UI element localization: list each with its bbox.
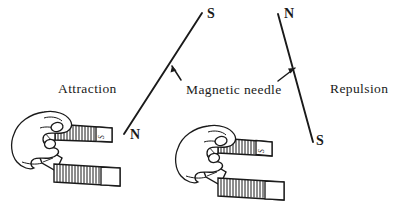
left-magnetic-needle: [124, 13, 202, 134]
right-magnet-pole-letter: S: [257, 149, 266, 153]
left-needle-bottom-pole-label: N: [130, 128, 140, 142]
left-needle-line: [124, 13, 202, 134]
right-magnet-lower-pole-tip: [265, 181, 284, 200]
right-hand-with-magnet: [176, 125, 284, 200]
left-magnet-lower-pole-tip: [101, 167, 120, 186]
magnetic-needle-label: Magnetic needle: [186, 83, 282, 97]
left-hand-with-magnet: [12, 111, 120, 186]
repulsion-label: Repulsion: [330, 82, 388, 96]
magnetism-illustration: S S Attraction Magnetic needle Repulsion…: [0, 0, 406, 203]
right-needle-line: [278, 14, 313, 142]
right-needle-bottom-pole-label: S: [316, 134, 324, 148]
illustration-canvas: S S: [0, 0, 406, 203]
right-needle-top-pole-label: N: [284, 7, 294, 21]
arrow-up-right-icon: [278, 68, 295, 81]
arrow-up-left-icon: [171, 66, 182, 80]
right-magnet-lower-hatch: [221, 178, 263, 198]
attraction-label: Attraction: [58, 82, 117, 96]
left-magnet-lower-hatch: [57, 164, 99, 184]
left-needle-top-pole-label: S: [207, 7, 215, 21]
left-magnet-pole-letter: S: [97, 135, 106, 139]
right-magnetic-needle: [278, 14, 313, 142]
